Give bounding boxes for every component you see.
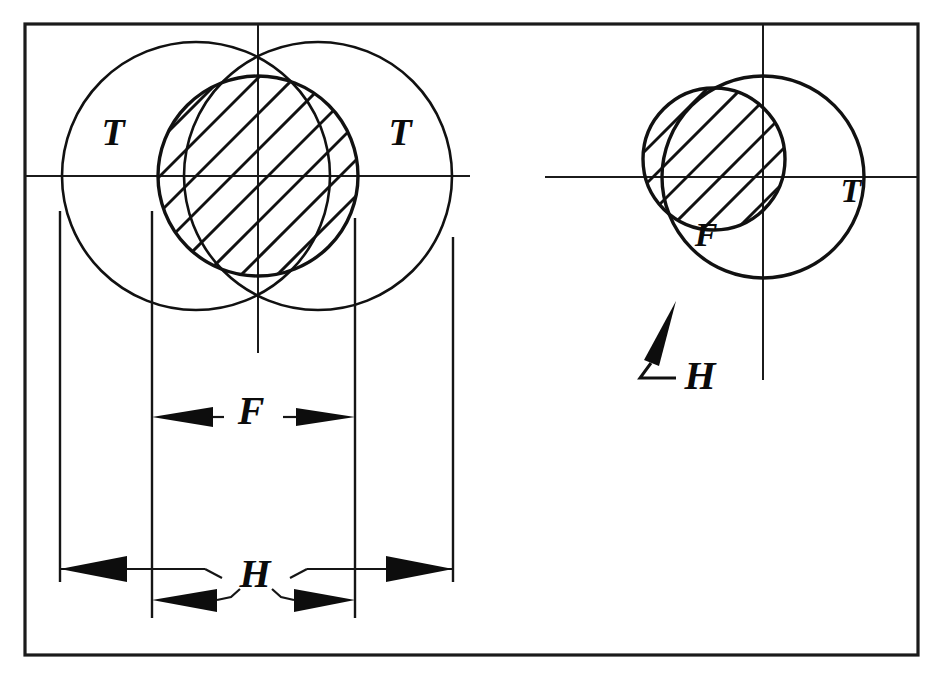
label-leader-h: H [683,353,717,398]
arrowhead-f-left [152,407,213,427]
arrowhead-h-outer-right [386,556,453,582]
filament-hatch-left [110,30,500,312]
dimension-H: H [60,551,453,612]
technical-drawing: T T F [0,0,935,679]
arrowhead-h-inner-right [294,589,355,612]
arrowhead-leader-h [644,301,676,366]
label-tube-right-view: T [841,172,863,209]
dimension-F: F [152,388,355,433]
arrowhead-h-inner-left [152,589,217,612]
drawing-border [25,24,918,655]
side-view: T F H [545,20,918,398]
arrowhead-h-outer-left [60,556,127,582]
label-tube-right: T [388,111,413,153]
leader-H-right-view: H [640,301,717,398]
front-view: T T F [26,25,500,618]
label-dimension-f: F [237,388,265,433]
label-dimension-h: H [238,551,272,596]
drawing-canvas: T T F [0,0,935,679]
arrowhead-f-right [296,408,355,426]
label-tube-left: T [101,111,126,153]
label-filament-right-view: F [694,216,718,253]
